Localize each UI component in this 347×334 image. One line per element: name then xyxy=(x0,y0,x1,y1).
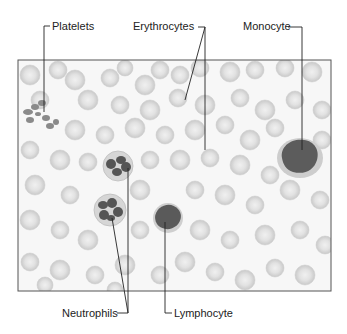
neutrophil-1 xyxy=(103,151,133,181)
micrograph-field xyxy=(18,59,334,298)
label-neutrophils: Neutrophils xyxy=(62,307,118,319)
monocyte xyxy=(277,138,323,178)
figure-svg xyxy=(0,0,347,334)
label-erythrocytes: Erythrocytes xyxy=(133,20,194,32)
label-monocyte: Monocyte xyxy=(243,20,291,32)
label-lymphocyte: Lymphocyte xyxy=(174,307,233,319)
neutrophil-2 xyxy=(94,194,126,226)
blood-smear-figure: Platelets Erythrocytes Monocyte Neutroph… xyxy=(0,0,347,334)
label-platelets: Platelets xyxy=(52,20,94,32)
